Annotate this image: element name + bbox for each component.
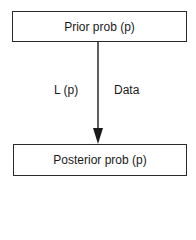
posterior-probability-label: Posterior prob (p) bbox=[53, 153, 146, 167]
likelihood-label: L (p) bbox=[54, 83, 78, 97]
data-label: Data bbox=[114, 83, 139, 97]
arrow-head-icon bbox=[93, 128, 103, 144]
posterior-probability-node: Posterior prob (p) bbox=[13, 144, 187, 176]
